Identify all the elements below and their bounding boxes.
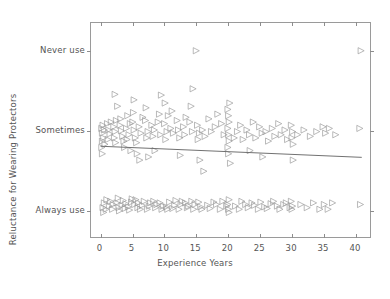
y-axis-tick-right — [370, 211, 374, 212]
data-point-marker — [231, 135, 237, 141]
data-point-marker — [240, 136, 246, 142]
data-point-marker — [217, 206, 223, 212]
data-point-marker — [225, 106, 231, 112]
x-axis-tick-label: 10 — [158, 243, 169, 253]
data-point-marker — [304, 205, 310, 211]
data-point-marker — [233, 203, 239, 209]
data-point-marker — [117, 122, 123, 128]
data-point-marker — [191, 206, 197, 212]
x-axis-tick-top — [356, 22, 357, 26]
data-point-marker — [247, 132, 253, 138]
x-axis-tick-top — [228, 22, 229, 26]
data-point-marker — [290, 157, 296, 163]
data-point-marker — [132, 135, 138, 141]
data-point-marker — [112, 91, 118, 97]
data-point-marker — [155, 119, 161, 125]
scatter-plot-figure: Reluctance for Wearing Protectors Always… — [0, 0, 390, 299]
data-point-marker — [357, 125, 363, 131]
data-point-marker — [238, 122, 244, 128]
data-point-marker — [99, 151, 105, 157]
data-point-marker — [333, 132, 339, 138]
data-point-marker — [221, 132, 227, 138]
x-axis-tick-label: 5 — [129, 243, 135, 253]
x-axis-tick — [196, 234, 197, 238]
x-axis-tick — [164, 234, 165, 238]
data-point-marker — [134, 151, 140, 157]
data-point-marker — [190, 86, 196, 92]
x-axis-tick-label: 30 — [286, 243, 297, 253]
data-point-marker — [151, 127, 157, 133]
data-point-marker — [158, 92, 164, 98]
data-point-marker — [225, 144, 231, 150]
data-point-marker — [188, 103, 194, 109]
data-point-marker — [156, 111, 162, 117]
data-point-marker — [125, 113, 131, 119]
data-point-marker — [290, 141, 296, 147]
y-axis-tick-label: Never use — [40, 45, 85, 55]
data-point-marker — [197, 157, 203, 163]
data-points-group — [99, 48, 364, 216]
plot-canvas — [91, 23, 370, 237]
data-point-marker — [189, 128, 195, 134]
x-axis-title: Experience Years — [0, 258, 390, 268]
data-point-marker — [326, 125, 332, 131]
data-point-marker — [215, 111, 221, 117]
data-point-marker — [311, 200, 317, 206]
data-point-marker — [239, 198, 245, 204]
data-point-marker — [146, 154, 152, 160]
data-point-marker — [172, 202, 178, 208]
data-point-marker — [138, 130, 144, 136]
x-axis-tick-label: 25 — [254, 243, 265, 253]
data-point-marker — [134, 140, 140, 146]
data-point-marker — [259, 130, 265, 136]
data-point-marker — [272, 133, 278, 139]
x-axis-tick-top — [260, 22, 261, 26]
regression-fit-line — [101, 146, 362, 157]
data-point-marker — [314, 128, 320, 134]
data-point-marker — [182, 132, 188, 138]
data-point-marker — [224, 203, 230, 209]
data-point-marker — [268, 201, 274, 207]
data-point-marker — [206, 116, 212, 122]
data-point-marker — [115, 103, 121, 109]
data-point-marker — [307, 133, 313, 139]
data-point-marker — [163, 136, 169, 142]
data-point-marker — [330, 200, 336, 206]
data-point-marker — [181, 124, 187, 130]
data-point-marker — [137, 157, 143, 163]
y-axis-tick — [87, 211, 91, 212]
y-axis-tick-label: Always use — [35, 205, 85, 215]
data-point-marker — [211, 199, 217, 205]
data-point-marker — [187, 119, 193, 125]
data-point-marker — [193, 48, 199, 54]
x-axis-tick — [260, 234, 261, 238]
data-point-marker — [257, 124, 263, 130]
data-point-marker — [174, 117, 180, 123]
data-point-marker — [150, 133, 156, 139]
x-axis-tick-top — [164, 22, 165, 26]
data-point-marker — [288, 198, 294, 204]
data-point-marker — [226, 113, 232, 119]
data-point-marker — [195, 136, 201, 142]
data-point-marker — [111, 124, 117, 130]
x-axis-tick-top — [101, 22, 102, 26]
data-point-marker — [144, 206, 150, 212]
data-point-marker — [358, 48, 364, 54]
data-point-marker — [234, 128, 240, 134]
data-point-marker — [170, 205, 176, 211]
data-point-marker — [143, 105, 149, 111]
x-axis-tick-label: 35 — [317, 243, 328, 253]
data-point-marker — [219, 121, 225, 127]
x-axis-tick-top — [196, 22, 197, 26]
x-axis-tick-top — [324, 22, 325, 26]
y-axis-tick-right — [370, 51, 374, 52]
x-axis-tick — [101, 234, 102, 238]
data-point-marker — [144, 135, 150, 141]
data-point-marker — [266, 138, 272, 144]
data-point-marker — [201, 168, 207, 174]
data-point-marker — [226, 119, 232, 125]
data-point-marker — [202, 133, 208, 139]
y-axis-tick — [87, 51, 91, 52]
data-point-marker — [227, 160, 233, 166]
data-point-marker — [130, 109, 136, 115]
